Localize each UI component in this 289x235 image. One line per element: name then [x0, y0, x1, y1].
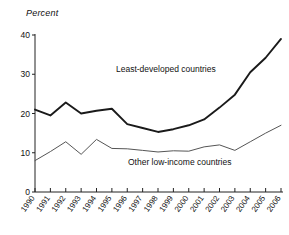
series-line — [35, 125, 281, 160]
x-tick-label: 2004 — [234, 194, 252, 214]
y-axis: 010203040 — [21, 30, 35, 197]
series-line — [35, 39, 281, 132]
y-tick-label: 30 — [21, 69, 31, 79]
y-tick-label: 10 — [21, 148, 31, 158]
x-tick-label: 2002 — [204, 194, 222, 214]
x-tick-label: 1992 — [50, 194, 68, 214]
x-tick-label: 2005 — [250, 194, 268, 214]
x-tick-label: 1996 — [111, 194, 129, 214]
series-annotation-label: Other low-income countries — [128, 157, 231, 167]
series-annotation-label: Least-developed countries — [116, 64, 216, 74]
x-tick-label: 1998 — [142, 194, 160, 214]
x-tick-label: 1990 — [19, 194, 37, 214]
x-tick-label: 1997 — [127, 194, 145, 214]
x-tick-label: 2001 — [188, 194, 206, 214]
x-tick-label: 2000 — [173, 194, 191, 214]
x-tick-label: 1994 — [81, 194, 99, 214]
y-tick-label: 20 — [21, 109, 31, 119]
y-tick-label: 40 — [21, 30, 31, 40]
x-tick-label: 1999 — [157, 194, 175, 214]
series-lines — [35, 39, 281, 161]
x-tick-label: 2003 — [219, 194, 237, 214]
x-tick-label: 1995 — [96, 194, 114, 214]
x-tick-label: 2006 — [265, 194, 283, 214]
chart-plot: 010203040 199019911992199319941995199619… — [0, 0, 289, 235]
x-tick-label: 1993 — [65, 194, 83, 214]
x-tick-label: 1991 — [34, 194, 52, 214]
x-axis: 1990199119921993199419951996199719981999… — [19, 188, 283, 214]
series-annotations: Least-developed countriesOther low-incom… — [116, 64, 231, 167]
chart-container: Percent 010203040 1990199119921993199419… — [0, 0, 289, 235]
